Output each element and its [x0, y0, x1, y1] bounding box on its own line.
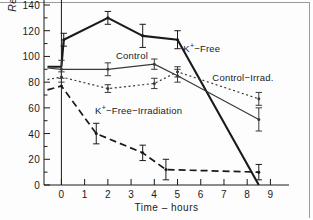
figure-root: 020406080100120140 0123456789 Resting Po…: [0, 0, 313, 220]
y-axis-label: Resting Potential – mV: [6, 0, 18, 29]
data-point: [60, 85, 63, 88]
data-point: [60, 76, 63, 79]
data-point: [106, 87, 109, 90]
data-point: [62, 38, 65, 41]
annotation-control-irrad: Control−Irrad.: [212, 72, 273, 83]
x-tick-label: 0: [58, 189, 64, 200]
x-tick-label: 6: [198, 189, 204, 200]
annotation-k-free: K+−Free: [183, 43, 220, 54]
data-point: [257, 118, 260, 121]
data-point: [176, 38, 179, 41]
data-point: [106, 16, 109, 19]
data-point: [106, 68, 109, 71]
x-tick-label: 9: [267, 189, 273, 200]
chart-canvas: [44, 5, 289, 185]
x-tick-label: 5: [175, 189, 181, 200]
x-tick-label: 8: [244, 189, 250, 200]
y-tick-label: 40: [28, 128, 40, 139]
data-point: [60, 68, 63, 71]
data-point: [257, 171, 260, 174]
plot-area: 020406080100120140 0123456789 Resting Po…: [44, 5, 289, 185]
x-tick-label: 2: [105, 189, 111, 200]
data-point: [141, 34, 144, 37]
data-point: [95, 132, 98, 135]
y-tick-label: 60: [28, 102, 40, 113]
y-tick-label: 100: [22, 51, 40, 62]
data-point: [153, 82, 156, 85]
annotation-control: Control: [116, 50, 148, 61]
x-axis-label: Time – hours: [44, 202, 289, 213]
data-point: [141, 151, 144, 154]
x-tick-label: 3: [128, 189, 134, 200]
x-tick-label: 1: [82, 189, 88, 200]
data-point: [164, 168, 167, 171]
y-tick-label: 120: [22, 25, 40, 36]
y-tick-label: 80: [28, 77, 40, 88]
x-tick-label: 4: [151, 189, 157, 200]
data-point: [257, 97, 260, 100]
y-tick-label: 0: [34, 180, 40, 191]
x-tick-label: 7: [221, 189, 227, 200]
y-tick-labels: 020406080100120140: [8, 5, 40, 185]
data-point: [153, 63, 156, 66]
data-point: [176, 70, 179, 73]
y-tick-label: 140: [22, 0, 40, 11]
y-tick-label: 20: [28, 154, 40, 165]
annotation-k-free-irradiation: K+−Free−Irradiation: [95, 105, 182, 116]
